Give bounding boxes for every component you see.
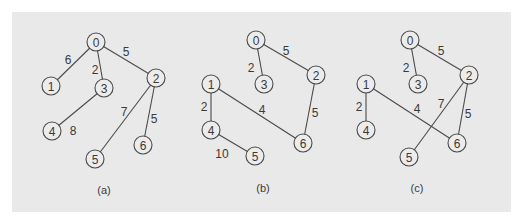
node-2: 2 <box>307 66 325 84</box>
node-label: 2 <box>466 69 473 83</box>
graph-c-caption: (c) <box>411 182 424 194</box>
edge-1-6 <box>366 84 457 143</box>
node-label: 1 <box>363 78 370 92</box>
node-1: 1 <box>357 75 375 93</box>
node-label: 4 <box>208 124 215 138</box>
edge-weight-1-4: 2 <box>201 100 208 114</box>
edge-weight-1-4: 2 <box>356 100 363 114</box>
node-label: 6 <box>140 139 147 153</box>
node-label: 5 <box>252 150 259 164</box>
node-3: 3 <box>255 75 273 93</box>
node-4: 4 <box>202 121 220 139</box>
node-label: 0 <box>253 34 260 48</box>
node-2: 2 <box>460 66 478 84</box>
edge-weight-2-5: 7 <box>438 97 445 111</box>
edge-1-6 <box>211 84 303 143</box>
edge-weight-1-6: 4 <box>259 103 266 117</box>
node-3: 3 <box>95 79 113 97</box>
graph-c: 252475 0123456 (c) <box>356 31 478 194</box>
graph-figure: 625875 0123456 (a) 2524510 0123456 (b) 2… <box>0 0 523 224</box>
node-5: 5 <box>246 147 264 165</box>
edge-weight-2-6: 5 <box>465 107 472 121</box>
node-6: 6 <box>134 136 152 154</box>
node-label: 0 <box>407 34 414 48</box>
node-4: 4 <box>357 121 375 139</box>
edge-weight-0-3: 2 <box>92 63 99 77</box>
graph-a-caption: (a) <box>97 184 110 196</box>
edge-weight-0-2: 5 <box>123 45 130 59</box>
edge-weight-2-6: 5 <box>151 112 158 126</box>
edge-weight-0-3: 2 <box>248 61 255 75</box>
graph-a: 625875 0123456 (a) <box>42 33 165 196</box>
node-label: 3 <box>415 78 422 92</box>
node-1: 1 <box>202 75 220 93</box>
node-label: 4 <box>363 124 370 138</box>
edge-weight-2-5: 7 <box>121 105 128 119</box>
node-label: 3 <box>261 78 268 92</box>
graph-b-caption: (b) <box>256 182 269 194</box>
node-2: 2 <box>147 69 165 87</box>
graph-b: 2524510 0123456 (b) <box>201 31 325 194</box>
edge-weight-0-3: 2 <box>403 61 410 75</box>
node-label: 5 <box>406 151 413 165</box>
edge-weight-0-2: 5 <box>438 44 445 58</box>
node-label: 4 <box>49 125 56 139</box>
node-0: 0 <box>247 31 265 49</box>
edge-weight-0-1: 6 <box>65 53 72 67</box>
node-4: 4 <box>43 122 61 140</box>
node-6: 6 <box>448 134 466 152</box>
node-label: 1 <box>208 78 215 92</box>
node-1: 1 <box>42 77 60 95</box>
node-label: 2 <box>313 69 320 83</box>
edge-weight-3-4: 8 <box>70 124 77 138</box>
node-0: 0 <box>401 31 419 49</box>
node-label: 6 <box>454 137 461 151</box>
edge-weight-2-6: 5 <box>312 106 319 120</box>
edge-3-4 <box>52 88 104 131</box>
node-3: 3 <box>409 75 427 93</box>
edge-weight-1-6: 4 <box>414 102 421 116</box>
node-label: 6 <box>300 137 307 151</box>
edge-weight-4-5: 10 <box>215 147 229 161</box>
node-label: 5 <box>92 153 99 167</box>
node-6: 6 <box>294 134 312 152</box>
node-label: 0 <box>93 36 100 50</box>
node-label: 2 <box>153 72 160 86</box>
node-0: 0 <box>87 33 105 51</box>
node-label: 1 <box>48 80 55 94</box>
node-label: 3 <box>101 82 108 96</box>
edge-weight-0-2: 5 <box>283 44 290 58</box>
graph-b-nodes: 0123456 <box>202 31 325 165</box>
node-5: 5 <box>86 150 104 168</box>
node-5: 5 <box>400 148 418 166</box>
